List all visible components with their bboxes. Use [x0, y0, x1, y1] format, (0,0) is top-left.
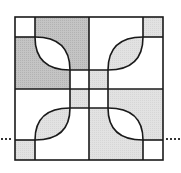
corner-square-bottom-left	[15, 140, 35, 160]
corner-square-bottom-right	[143, 140, 163, 160]
corner-square-top-left	[15, 17, 35, 37]
corner-square-top-right	[143, 17, 163, 37]
center-square-bottom-right	[89, 89, 108, 108]
center-square-top-left	[70, 70, 89, 89]
center-square-bottom-left	[70, 89, 89, 108]
center-square-top-right	[89, 70, 108, 89]
dotted-extension-left	[1, 138, 11, 140]
dotted-extension-right	[166, 138, 180, 140]
quilt-diagram	[0, 0, 181, 173]
quilt-block-figure: Quilt block pattern	[0, 0, 181, 173]
